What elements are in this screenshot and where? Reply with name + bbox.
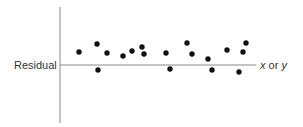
- data-point: [94, 41, 99, 46]
- data-point: [209, 67, 214, 72]
- data-point: [189, 51, 194, 56]
- data-point: [120, 53, 125, 58]
- y-var: y: [281, 59, 287, 71]
- data-point: [104, 50, 109, 55]
- data-point: [76, 49, 81, 54]
- data-point: [129, 48, 134, 53]
- x-axis-label: x or y: [260, 58, 287, 72]
- data-point: [205, 56, 210, 61]
- conjunction: or: [266, 59, 282, 71]
- data-point: [95, 67, 100, 72]
- data-point: [224, 47, 229, 52]
- data-point: [243, 40, 248, 45]
- data-point: [184, 40, 189, 45]
- data-point: [163, 50, 168, 55]
- data-point: [236, 69, 241, 74]
- data-points: [76, 40, 248, 74]
- data-point: [240, 49, 245, 54]
- y-axis-label: Residual: [14, 58, 57, 72]
- data-point: [167, 66, 172, 71]
- data-point: [141, 51, 146, 56]
- data-point: [139, 44, 144, 49]
